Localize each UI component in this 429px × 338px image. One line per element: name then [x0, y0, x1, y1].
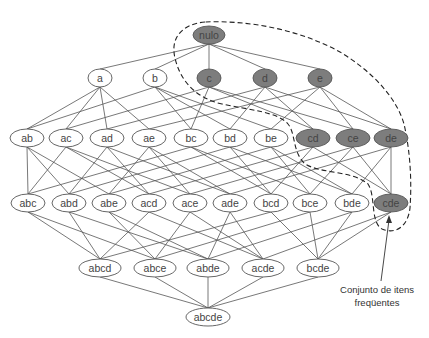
node-label: bc [185, 132, 196, 144]
edge-abe-abce [109, 212, 155, 259]
node-label: b [152, 72, 158, 84]
edge-ae-ace [149, 147, 190, 194]
itemset-node-ade: ade [213, 194, 247, 212]
edge-ac-acd [66, 147, 149, 194]
node-label: acd [141, 197, 158, 209]
edge-bd-abd [69, 147, 230, 194]
node-label: abcde [194, 311, 223, 323]
edge-ce-bce [310, 147, 353, 194]
edge-a-ab [27, 87, 100, 129]
node-label: bcde [307, 262, 330, 274]
edge-c-cd [209, 87, 313, 129]
edge-abce-abcde [155, 277, 208, 308]
node-label: abe [100, 197, 118, 209]
itemset-node-bce: bce [293, 194, 327, 212]
edge-a-ae [100, 87, 149, 129]
node-label: nulo [199, 29, 219, 41]
node-label: ce [347, 132, 358, 144]
edge-nulo-b [155, 44, 209, 69]
node-label: bcd [263, 197, 280, 209]
itemset-node-be: be [254, 129, 288, 147]
itemset-node-ac: ac [49, 129, 83, 147]
edge-bcde-abcde [208, 277, 318, 308]
itemset-node-ce: ce [336, 129, 370, 147]
node-label: ae [143, 132, 155, 144]
edge-d-de [265, 87, 391, 129]
edge-cde-acde [263, 212, 391, 259]
edge-ce-ace [190, 147, 353, 194]
edge-c-bc [191, 87, 209, 129]
itemset-node-cd: cd [296, 129, 330, 147]
edge-a-ac [66, 87, 100, 129]
itemset-node-ace: ace [173, 194, 207, 212]
itemset-node-bcd: bcd [254, 194, 288, 212]
itemset-node-e: e [308, 69, 332, 87]
edge-acde-abcde [208, 277, 263, 308]
edge-b-bd [155, 87, 230, 129]
edge-ab-abc [27, 147, 28, 194]
node-label: bd [224, 132, 236, 144]
itemset-node-a: a [88, 69, 112, 87]
node-label: be [265, 132, 277, 144]
edge-ad-abd [69, 147, 107, 194]
edge-e-ce [320, 87, 353, 129]
edge-abc-abce [28, 212, 155, 259]
edge-b-ab [27, 87, 155, 129]
node-label: abd [60, 197, 78, 209]
edge-a-ad [100, 87, 107, 129]
itemset-node-nulo: nulo [193, 26, 225, 44]
itemset-node-ae: ae [132, 129, 166, 147]
edge-cde-bcde [318, 212, 391, 259]
itemset-node-bde: bde [335, 194, 369, 212]
node-label: bde [343, 197, 361, 209]
edge-nulo-d [209, 44, 265, 69]
node-label: abce [144, 262, 167, 274]
itemset-node-abd: abd [52, 194, 86, 212]
node-label: bce [302, 197, 319, 209]
node-label: cde [383, 197, 400, 209]
node-label: de [385, 132, 397, 144]
itemset-node-bd: bd [213, 129, 247, 147]
itemset-node-abde: abde [187, 259, 229, 277]
caption-line-1: Conjunto de itens [322, 283, 429, 296]
itemset-node-acd: acd [132, 194, 166, 212]
node-label: e [317, 72, 323, 84]
arrowhead-icon [386, 215, 392, 223]
edge-b-be [155, 87, 271, 129]
edge-nulo-e [209, 44, 320, 69]
itemset-node-b: b [143, 69, 167, 87]
edge-abcd-abcde [100, 277, 208, 308]
edge-ab-abe [27, 147, 109, 194]
edge-d-cd [265, 87, 313, 129]
node-label: ab [21, 132, 33, 144]
edge-abe-abde [109, 212, 208, 259]
caption-line-2: freqüentes [322, 296, 429, 309]
edge-e-ae [149, 87, 320, 129]
node-label: cd [307, 132, 318, 144]
node-label: abc [20, 197, 37, 209]
node-label: c [206, 72, 211, 84]
edge-bce-abce [155, 212, 310, 259]
itemset-node-de: de [374, 129, 408, 147]
edge-bde-bcde [318, 212, 352, 259]
edge-de-ade [230, 147, 391, 194]
edge-nulo-a [100, 44, 209, 69]
node-label: abcd [89, 262, 112, 274]
frequent-itemset-caption: Conjunto de itens freqüentes [322, 283, 429, 309]
edge-be-abe [109, 147, 271, 194]
itemset-node-ab: ab [10, 129, 44, 147]
itemset-node-cde: cde [374, 194, 408, 212]
edge-bde-abde [208, 212, 352, 259]
node-label: a [97, 72, 103, 84]
node-label: d [262, 72, 268, 84]
itemset-node-abe: abe [92, 194, 126, 212]
node-label: ad [101, 132, 113, 144]
itemset-node-ad: ad [90, 129, 124, 147]
itemset-node-abc: abc [11, 194, 45, 212]
edge-cd-acd [149, 147, 313, 194]
itemset-node-c: c [197, 69, 221, 87]
node-label: ade [221, 197, 239, 209]
itemset-node-bcde: bcde [297, 259, 339, 277]
itemset-node-abce: abce [134, 259, 176, 277]
edge-abd-abcd [69, 212, 100, 259]
